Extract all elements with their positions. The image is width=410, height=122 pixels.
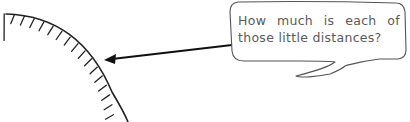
pointer-arrow (104, 45, 232, 64)
tick-arc (4, 14, 128, 122)
tick-mark (11, 15, 15, 24)
tick-mark (30, 19, 34, 28)
tick-mark (48, 26, 53, 34)
arrow-shaft (112, 45, 232, 59)
arrow-head-icon (104, 54, 116, 64)
tick-mark (64, 37, 70, 45)
tick-mark (20, 16, 24, 25)
tick-mark (106, 115, 114, 120)
tick-mark (56, 31, 62, 39)
tick-mark (72, 44, 78, 52)
tick-mark (39, 22, 44, 31)
tick-mark (102, 95, 110, 100)
tick-mark (85, 59, 92, 66)
callout-text: How much is each of those little distanc… (238, 12, 400, 46)
tick-mark (78, 51, 85, 58)
tick-marks (4, 14, 113, 119)
tick-mark (95, 76, 102, 82)
tick-mark (104, 105, 112, 110)
tick-mark (90, 67, 97, 74)
tick-mark (99, 85, 107, 91)
